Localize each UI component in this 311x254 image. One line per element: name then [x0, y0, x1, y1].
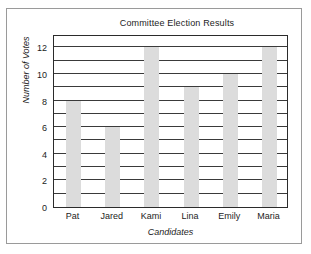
- bar: [184, 87, 199, 207]
- x-axis-tick-labels: PatJaredKamiLinaEmilyMaria: [53, 212, 288, 226]
- y-axis-tick-label: 8: [25, 98, 47, 107]
- y-axis-tick-label: 4: [25, 151, 47, 160]
- y-axis-tick-labels: 024681012: [23, 35, 47, 208]
- bar: [262, 47, 277, 207]
- bar-series: [54, 36, 287, 207]
- chart-title-text: Committee Election Results: [120, 18, 234, 28]
- bar: [66, 101, 81, 207]
- y-axis-tick-label: 6: [25, 124, 47, 133]
- bar: [223, 74, 238, 207]
- y-axis-tick-label: 10: [25, 71, 47, 80]
- y-axis-tick-label: 0: [25, 204, 47, 213]
- x-axis-tick-label: Pat: [53, 212, 92, 221]
- plot-area: [53, 35, 288, 208]
- x-axis-tick-label: Jared: [92, 212, 131, 221]
- y-axis-tick-label: 12: [25, 44, 47, 53]
- x-axis-tick-label: Maria: [249, 212, 288, 221]
- y-axis-tick-label: 2: [25, 177, 47, 186]
- x-axis-title: Candidates: [53, 227, 288, 237]
- bar: [144, 47, 159, 207]
- x-axis-tick-label: Lina: [171, 212, 210, 221]
- figure-frame: Committee Election Results Number of Vot…: [6, 8, 302, 244]
- chart-title: Committee Election Results: [7, 18, 303, 28]
- x-axis-tick-label: Emily: [210, 212, 249, 221]
- x-axis-tick-label: Kami: [131, 212, 170, 221]
- bar: [105, 127, 120, 207]
